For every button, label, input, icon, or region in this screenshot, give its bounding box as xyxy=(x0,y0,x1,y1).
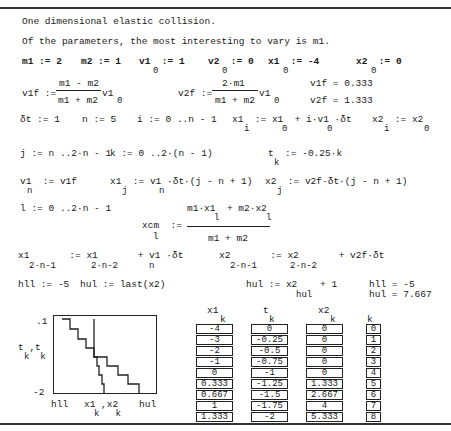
table-cell: 1.333 xyxy=(306,379,343,389)
table-cell: -1.75 xyxy=(251,401,288,411)
param-m1[interactable]: m1 := 2 xyxy=(22,56,62,67)
doc-intro: Of the parameters, the most interesting … xyxy=(22,36,330,47)
xcm-numerator: m1·x1 + m2·x2 xyxy=(187,203,267,214)
table-cell: 0 xyxy=(306,357,343,367)
xcm-denominator: m1 + m2 xyxy=(208,233,248,244)
v2f-result: v2f = 1.333 xyxy=(310,95,373,106)
subscript: l xyxy=(266,213,271,223)
table-cell: -1 xyxy=(196,357,233,367)
table-cell: -2 xyxy=(251,412,288,422)
subscript: l xyxy=(214,213,219,223)
table-cell: -0.75 xyxy=(251,357,288,367)
param-v2-0[interactable]: v2 := 0 xyxy=(208,56,254,67)
subscript: j xyxy=(122,186,127,196)
plot-x-axis-sub: k k xyxy=(94,409,121,419)
j-range[interactable]: j := n ..2·n - 1 xyxy=(20,148,111,159)
hll-def[interactable]: hll := -5 xyxy=(18,279,69,290)
param-x1-0[interactable]: x1 := -4 xyxy=(268,56,319,67)
fraction-bar xyxy=(212,90,258,91)
x2-i-def[interactable]: x2 := x2 xyxy=(372,114,423,125)
xcm-lhs[interactable]: xcm := xyxy=(142,220,182,231)
subscript: n xyxy=(159,186,164,196)
table-cell: -2 xyxy=(196,346,233,356)
subscript: i xyxy=(384,124,389,134)
x1-j-def[interactable]: x1 := v1 ·δt·(j - n + 1) xyxy=(110,176,253,187)
k-range[interactable]: k := 0 ..2·(n - 1) xyxy=(110,148,213,159)
table-cell: 0 xyxy=(366,324,381,334)
param-v1-0[interactable]: v1 := 1 xyxy=(139,56,185,67)
table-cell: 1.333 xyxy=(196,412,233,422)
doc-title: One dimensional elastic collision. xyxy=(22,16,216,27)
table-cell: 5.333 xyxy=(306,412,343,422)
table-cell: 4 xyxy=(306,401,343,411)
x1-table[interactable]: -4-3-2-100.3330.66711.333 xyxy=(196,324,233,423)
subscript: 0 xyxy=(117,96,122,106)
n-def[interactable]: n := 5 xyxy=(82,114,116,125)
v2f-lhs[interactable]: v2f := xyxy=(178,88,212,99)
table-cell: 8 xyxy=(366,412,381,422)
hul-redef[interactable]: hul := x2 + 1 xyxy=(246,279,337,290)
param-m2[interactable]: m2 := 1 xyxy=(81,56,121,67)
plot-y-axis-sub: k k xyxy=(24,352,46,362)
table-cell: 1 xyxy=(196,401,233,411)
i-range[interactable]: i := 0 ..n - 1 xyxy=(137,114,217,125)
subscript: 2·n-1 xyxy=(230,261,257,271)
subscript: 0 xyxy=(282,124,287,134)
table-cell: 0.667 xyxy=(196,390,233,400)
subscript: 0 xyxy=(274,96,279,106)
table-cell: 0 xyxy=(306,368,343,378)
table-cell: 6 xyxy=(366,390,381,400)
subscript: 0 xyxy=(371,66,376,76)
table-cell: 4 xyxy=(366,368,381,378)
l-range[interactable]: l := 0 ..2·n - 1 xyxy=(20,203,111,214)
x2-last-def[interactable]: x2 := x2 + v2f·δt xyxy=(219,250,384,261)
subscript: 2·n-2 xyxy=(290,261,317,271)
t-table[interactable]: 0-0.25-0.5-0.75-1-1.25-1.5-1.75-2 xyxy=(251,324,288,423)
table-cell: 2 xyxy=(366,346,381,356)
x1-i-def[interactable]: x1 := x1 + i·v1 ·δt xyxy=(232,114,352,125)
v1f-numerator: m1 - m2 xyxy=(59,78,99,89)
param-x2-0[interactable]: x2 := 0 xyxy=(356,56,402,67)
x2-table-header: x2 xyxy=(318,306,329,316)
collision-plot[interactable] xyxy=(53,315,157,394)
v1f-tail: v1 xyxy=(102,88,113,99)
subscript: i xyxy=(244,124,249,134)
x2-j-def[interactable]: x2 := v2f·δt·(j - n + 1) xyxy=(265,176,408,187)
subscript: 0 xyxy=(327,124,332,134)
subscript: 2·n-2 xyxy=(91,261,118,271)
v1f-result: v1f = 0.333 xyxy=(310,78,373,89)
table-cell: 7 xyxy=(366,401,381,411)
plot-y-top-label: .1 xyxy=(36,316,47,327)
table-cell: -1 xyxy=(251,368,288,378)
table-cell: 0 xyxy=(306,324,343,334)
subscript: 0 xyxy=(424,124,429,134)
subscript: n xyxy=(27,186,32,196)
subscript: 2·n-1 xyxy=(29,261,56,271)
plot-x-left-label: hll xyxy=(51,399,68,410)
top-rule xyxy=(0,7,451,9)
subscript: 0 xyxy=(222,66,227,76)
v2f-tail: v1 xyxy=(259,88,270,99)
bottom-rule xyxy=(0,423,451,425)
table-cell: 1 xyxy=(366,335,381,345)
hul-result: hul = 7.667 xyxy=(369,289,432,300)
table-cell: -0.5 xyxy=(251,346,288,356)
table-cell: 0 xyxy=(306,346,343,356)
v2f-denominator: m1 + m2 xyxy=(215,95,255,106)
v1f-lhs[interactable]: v1f := xyxy=(22,88,56,99)
table-cell: 0 xyxy=(251,324,288,334)
subscript: l xyxy=(153,232,158,242)
subscript: n xyxy=(149,261,154,271)
x1-last-def[interactable]: x1 := x1 + v1 ·δt xyxy=(18,250,183,261)
hul-def[interactable]: hul := last(x2) xyxy=(80,279,166,290)
dt-def[interactable]: δt := 1 xyxy=(20,114,60,125)
subscript: 0 xyxy=(283,66,288,76)
x2-table[interactable]: 000001.3332.66745.333 xyxy=(306,324,343,423)
k-table[interactable]: 012345678 xyxy=(366,324,381,423)
table-cell: 5 xyxy=(366,379,381,389)
table-cell: -3 xyxy=(196,335,233,345)
subscript: k xyxy=(274,158,279,168)
plot-lines xyxy=(54,316,156,393)
fraction-bar xyxy=(187,226,270,227)
t-table-header: t xyxy=(263,306,269,316)
